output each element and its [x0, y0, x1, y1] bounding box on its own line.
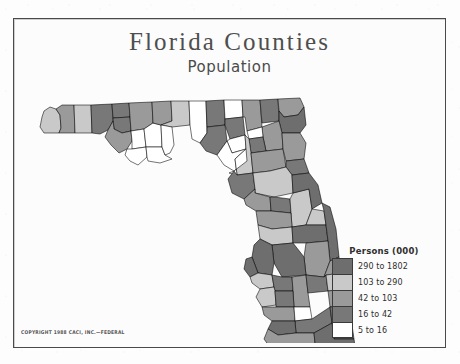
legend-row[interactable]: 290 to 1802 — [332, 258, 436, 274]
county-calhoun[interactable] — [131, 129, 146, 149]
map-svg — [34, 81, 364, 343]
county-hamilton[interactable] — [224, 100, 243, 119]
county-okaloosa[interactable] — [74, 105, 92, 133]
map-frame: Florida Counties Population — [13, 18, 446, 348]
county-layer — [40, 98, 356, 343]
county-gadsden[interactable] — [152, 101, 172, 125]
county-st-johns[interactable] — [282, 133, 306, 161]
county-baker[interactable] — [260, 99, 279, 123]
county-holmes[interactable] — [112, 103, 130, 118]
legend-swatch — [332, 306, 353, 322]
legend: Persons (000) 290 to 1802103 to 29042 to… — [332, 246, 436, 338]
title-block: Florida Counties Population — [14, 29, 445, 76]
copyright-notice: COPYRIGHT 1988 CACI, INC.—FEDERAL — [21, 329, 125, 335]
county-gulf[interactable] — [125, 147, 147, 165]
page-title: Florida Counties — [14, 29, 445, 55]
county-polk[interactable] — [272, 243, 306, 277]
county-hardee[interactable] — [272, 275, 293, 291]
county-okeechobee[interactable] — [306, 275, 328, 293]
legend-row[interactable]: 16 to 42 — [332, 306, 436, 322]
legend-label: 103 to 290 — [353, 274, 403, 290]
legend-label: 16 to 42 — [353, 306, 392, 322]
legend-title: Persons (000) — [332, 246, 436, 256]
legend-row[interactable]: 5 to 16 — [332, 322, 436, 338]
florida-choropleth-map — [34, 81, 364, 343]
county-bradford[interactable] — [249, 137, 266, 153]
legend-label: 42 to 103 — [353, 290, 397, 306]
county-desoto[interactable] — [275, 291, 294, 307]
county-sarasota[interactable] — [256, 287, 276, 307]
county-charlotte[interactable] — [262, 307, 295, 321]
legend-label: 290 to 1802 — [353, 258, 408, 274]
legend-swatch — [332, 258, 353, 274]
legend-swatch — [332, 274, 353, 290]
county-orange[interactable] — [292, 225, 328, 243]
document-page: Florida Counties Population — [0, 0, 460, 364]
legend-label: 5 to 16 — [353, 322, 387, 338]
legend-swatch — [332, 290, 353, 306]
county-manatee[interactable] — [250, 273, 274, 289]
legend-row[interactable]: 103 to 290 — [332, 274, 436, 290]
county-glades[interactable] — [294, 307, 312, 321]
county-sumter[interactable] — [270, 197, 291, 213]
county-columbia[interactable] — [242, 100, 262, 131]
legend-row[interactable]: 42 to 103 — [332, 290, 436, 306]
legend-rows: 290 to 1802103 to 29042 to 10316 to 425 … — [332, 258, 436, 338]
page-subtitle: Population — [14, 58, 445, 76]
legend-swatch — [332, 322, 353, 338]
county-madison[interactable] — [206, 100, 225, 127]
